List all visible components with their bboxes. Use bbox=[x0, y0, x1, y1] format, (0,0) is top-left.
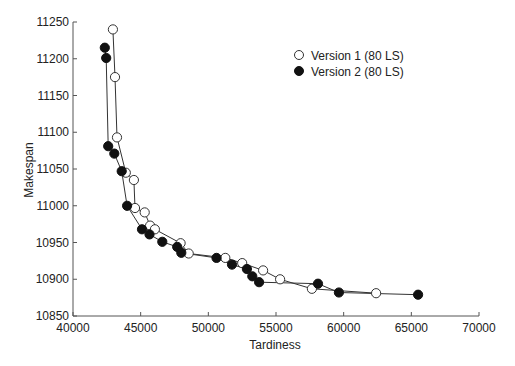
data-point-filled-circle bbox=[110, 149, 119, 158]
x-tick-label: 45000 bbox=[124, 321, 158, 335]
y-tick-label: 10900 bbox=[36, 272, 70, 286]
y-tick-label: 11250 bbox=[37, 15, 70, 29]
chart: 1085010900109501100011050111001115011200… bbox=[0, 0, 515, 366]
y-tick-label: 11050 bbox=[37, 162, 70, 176]
legend-label-version-2: Version 2 (80 LS) bbox=[311, 65, 404, 79]
y-tick-label: 11100 bbox=[37, 125, 69, 139]
data-point-open-circle bbox=[140, 208, 149, 217]
data-point-filled-circle bbox=[158, 237, 167, 246]
legend-label-version-1: Version 1 (80 LS) bbox=[311, 49, 404, 63]
data-point-open-circle bbox=[110, 73, 119, 82]
x-tick-label: 40000 bbox=[56, 321, 90, 335]
data-point-open-circle bbox=[259, 266, 268, 275]
data-point-filled-circle bbox=[334, 288, 343, 297]
data-point-filled-circle bbox=[313, 279, 322, 288]
data-point-filled-circle bbox=[414, 290, 423, 299]
legend: Version 1 (80 LS) Version 2 (80 LS) bbox=[295, 49, 404, 79]
x-tick-label: 50000 bbox=[192, 321, 226, 335]
data-point-filled-circle bbox=[255, 278, 264, 287]
x-tick-label: 65000 bbox=[395, 321, 429, 335]
data-point-filled-circle bbox=[102, 53, 111, 62]
data-point-filled-circle bbox=[123, 201, 132, 210]
series-line-2 bbox=[105, 48, 418, 295]
y-tick-label: 10950 bbox=[36, 236, 70, 250]
data-point-filled-circle bbox=[212, 253, 221, 262]
x-axis-title: Tardiness bbox=[249, 338, 300, 352]
data-point-filled-circle bbox=[100, 43, 109, 52]
data-point-filled-circle bbox=[177, 248, 186, 257]
data-point-open-circle bbox=[276, 275, 285, 284]
data-point-open-circle bbox=[129, 175, 138, 184]
legend-open-circle-icon bbox=[295, 51, 304, 60]
x-tick-label: 60000 bbox=[327, 321, 361, 335]
x-tick-label: 55000 bbox=[259, 321, 293, 335]
y-tick-label: 11200 bbox=[37, 52, 70, 66]
axes: 1085010900109501100011050111001115011200… bbox=[36, 15, 496, 335]
y-tick-label: 11150 bbox=[37, 89, 69, 103]
y-axis-title: Makespan bbox=[22, 142, 36, 197]
y-tick-label: 11000 bbox=[37, 199, 70, 213]
data-point-filled-circle bbox=[227, 260, 236, 269]
x-tick-label: 70000 bbox=[462, 321, 496, 335]
data-point-open-circle bbox=[108, 25, 117, 34]
data-point-filled-circle bbox=[117, 167, 126, 176]
legend-filled-circle-icon bbox=[295, 67, 304, 76]
data-point-filled-circle bbox=[145, 230, 154, 239]
data-point-open-circle bbox=[372, 289, 381, 298]
data-point-open-circle bbox=[112, 133, 121, 142]
